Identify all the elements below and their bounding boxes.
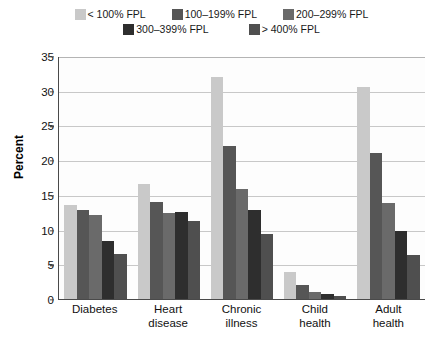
bar-child-health-series-1[interactable] [296, 285, 309, 299]
bar-diabetes-series-0[interactable] [64, 205, 77, 299]
y-tick-mark-30 [50, 91, 54, 92]
x-axis-labels: DiabetesHeartdiseaseChronicillnessChildh… [58, 303, 425, 330]
y-tick-label-15: 15 [14, 190, 54, 202]
bar-chart-figure: < 100% FPL 100–199% FPL 200–299% FPL 300… [0, 0, 443, 342]
bar-adult-health-series-4[interactable] [407, 255, 420, 299]
bar-chronic-illness-series-4[interactable] [261, 234, 274, 299]
bar-groups [59, 57, 425, 299]
x-axis-label-adult-health: Adulthealth [352, 303, 425, 330]
legend-item-1: 100–199% FPL [172, 8, 257, 20]
legend-swatch-4 [249, 24, 260, 35]
bar-diabetes-series-2[interactable] [89, 215, 102, 299]
x-axis-label-chronic-illness: Chronicillness [205, 303, 278, 330]
x-axis-label-heart-disease: Heartdisease [131, 303, 204, 330]
bar-adult-health-series-1[interactable] [370, 153, 383, 299]
legend-label-1: 100–199% FPL [185, 8, 257, 20]
bar-heart-disease-series-1[interactable] [150, 202, 163, 299]
x-axis-label-child-health: Childhealth [278, 303, 351, 330]
legend-item-4: > 400% FPL [249, 23, 320, 35]
legend-item-0: < 100% FPL [75, 8, 146, 20]
bar-chronic-illness-series-3[interactable] [248, 210, 261, 299]
legend-swatch-2 [283, 9, 294, 20]
bar-group-heart-disease [132, 57, 205, 299]
legend-row-1: < 100% FPL 100–199% FPL 200–299% FPL [0, 8, 443, 20]
legend-label-0: < 100% FPL [88, 8, 146, 20]
bar-chronic-illness-series-0[interactable] [211, 77, 224, 299]
bar-adult-health-series-0[interactable] [357, 87, 370, 299]
bar-heart-disease-series-4[interactable] [188, 221, 201, 299]
legend-swatch-3 [123, 24, 134, 35]
bar-group-diabetes [59, 57, 132, 299]
y-tick-label-5: 5 [14, 259, 54, 271]
legend-label-2: 200–299% FPL [296, 8, 368, 20]
bar-child-health-series-0[interactable] [284, 272, 297, 299]
y-tick-label-10: 10 [14, 225, 54, 237]
legend-label-3: 300–399% FPL [136, 23, 208, 35]
bar-heart-disease-series-0[interactable] [138, 184, 151, 299]
chart-legend: < 100% FPL 100–199% FPL 200–299% FPL 300… [0, 8, 443, 38]
y-tick-mark-5 [50, 265, 54, 266]
y-tick-label-25: 25 [14, 120, 54, 132]
legend-swatch-0 [75, 9, 86, 20]
legend-label-4: > 400% FPL [262, 23, 320, 35]
bar-diabetes-series-1[interactable] [77, 210, 90, 299]
bar-diabetes-series-3[interactable] [102, 241, 115, 299]
y-tick-mark-25 [50, 126, 54, 127]
bar-group-adult-health [352, 57, 425, 299]
bar-group-child-health [279, 57, 352, 299]
legend-swatch-1 [172, 9, 183, 20]
y-tick-mark-35 [50, 56, 54, 57]
legend-item-2: 200–299% FPL [283, 8, 368, 20]
bar-child-health-series-2[interactable] [309, 292, 322, 299]
bar-child-health-series-4[interactable] [334, 296, 347, 299]
bar-chronic-illness-series-2[interactable] [236, 189, 249, 299]
legend-item-3: 300–399% FPL [123, 23, 208, 35]
bar-adult-health-series-2[interactable] [382, 203, 395, 299]
legend-row-2: 300–399% FPL > 400% FPL [0, 23, 443, 35]
y-tick-label-0: 0 [14, 294, 54, 306]
y-tick-mark-0 [50, 299, 54, 300]
x-axis-label-diabetes: Diabetes [58, 303, 131, 330]
y-tick-mark-20 [50, 160, 54, 161]
bar-heart-disease-series-2[interactable] [163, 213, 176, 299]
y-tick-label-30: 30 [14, 86, 54, 98]
bar-adult-health-series-3[interactable] [395, 231, 408, 299]
y-tick-label-20: 20 [14, 155, 54, 167]
y-tick-mark-15 [50, 195, 54, 196]
bar-diabetes-series-4[interactable] [114, 254, 127, 299]
bar-heart-disease-series-3[interactable] [175, 212, 188, 299]
y-tick-mark-10 [50, 230, 54, 231]
bar-child-health-series-3[interactable] [321, 294, 334, 299]
y-axis-ticks: 05101520253035 [0, 57, 54, 300]
bar-group-chronic-illness [205, 57, 278, 299]
plot-area [58, 57, 425, 300]
bar-chronic-illness-series-1[interactable] [223, 146, 236, 299]
y-tick-label-35: 35 [14, 51, 54, 63]
